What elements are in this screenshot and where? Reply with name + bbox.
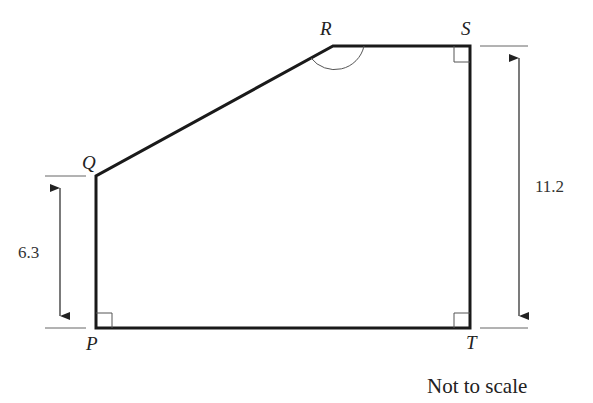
not-to-scale-caption: Not to scale [427, 374, 527, 398]
vertex-label-q: Q [82, 152, 96, 173]
pentagon-diagram: Q P R S T 6.3 11.2 Not to scale [0, 0, 593, 403]
dimension-value-left: 6.3 [18, 243, 39, 262]
right-angle-marker-p [96, 313, 112, 328]
vertex-label-t: T [466, 332, 478, 353]
vertex-label-r: R [319, 18, 332, 39]
pentagon-pqrst [96, 46, 470, 328]
right-angle-marker-t [454, 313, 470, 328]
vertex-label-s: S [461, 18, 471, 39]
right-angle-marker-s [454, 46, 470, 62]
dimension-value-right: 11.2 [535, 177, 564, 196]
angle-arc-r [311, 46, 364, 70]
vertex-label-p: P [85, 333, 98, 354]
